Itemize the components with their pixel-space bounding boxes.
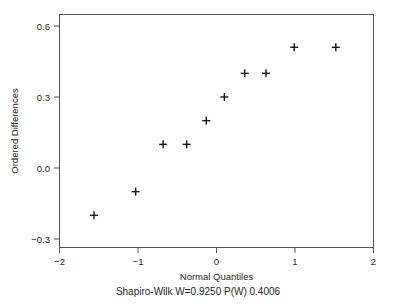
x-tick-label-4: 2: [371, 256, 376, 267]
data-point-marker: [183, 140, 191, 148]
x-axis-title: Normal Quantiles: [180, 271, 254, 282]
plot-canvas: 0.6 0.3 0.0 −0.3 −2 −1 0 1 2 Normal Quan…: [0, 0, 396, 308]
x-tick-label-3: 1: [292, 256, 297, 267]
y-tick-label-3: −0.3: [31, 234, 50, 245]
data-point-marker: [290, 43, 298, 51]
y-tick-label-0: 0.6: [37, 21, 50, 32]
x-tick-label-2: 0: [214, 256, 219, 267]
data-point-layer: [90, 43, 340, 219]
data-point-marker: [220, 93, 228, 101]
data-point-marker: [202, 117, 210, 125]
data-point-marker: [332, 43, 340, 51]
x-axis-ticks: [60, 248, 374, 254]
x-tick-label-1: −1: [133, 256, 144, 267]
data-point-marker: [241, 69, 249, 77]
y-tick-label-2: 0.0: [37, 163, 50, 174]
plot-frame: [60, 15, 374, 248]
shapiro-wilk-caption: Shapiro-Wilk W=0.9250 P(W) 0.4006: [116, 286, 281, 297]
y-tick-label-1: 0.3: [37, 92, 50, 103]
y-axis-ticks: [54, 26, 60, 239]
data-point-marker: [132, 188, 140, 196]
x-tick-label-0: −2: [54, 256, 65, 267]
data-point-marker: [159, 140, 167, 148]
data-point-marker: [90, 211, 98, 219]
qq-plot-figure: 0.6 0.3 0.0 −0.3 −2 −1 0 1 2 Normal Quan…: [0, 0, 396, 308]
data-point-marker: [262, 69, 270, 77]
y-axis-title: Ordered Differences: [9, 88, 20, 174]
